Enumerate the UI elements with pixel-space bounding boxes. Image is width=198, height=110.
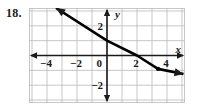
- svg-text:y: y: [113, 8, 120, 20]
- exercise-number: 18.: [6, 7, 22, 19]
- svg-text:−4: −4: [40, 57, 52, 69]
- svg-text:0: 0: [97, 57, 103, 69]
- svg-text:x: x: [175, 43, 182, 55]
- graph-svg: −4−20242−2yx: [29, 8, 185, 103]
- svg-text:4: 4: [163, 57, 169, 69]
- marked-points: [156, 67, 160, 71]
- axis-tick-labels: −4−20242−2yx: [40, 8, 181, 91]
- figure-root: 18. −4−20242−2yx: [0, 0, 198, 110]
- axes: [30, 9, 184, 102]
- svg-text:2: 2: [133, 57, 139, 69]
- svg-text:2: 2: [98, 20, 104, 32]
- coordinate-graph: −4−20242−2yx: [29, 8, 185, 103]
- svg-text:−2: −2: [91, 79, 103, 91]
- svg-text:−2: −2: [70, 57, 82, 69]
